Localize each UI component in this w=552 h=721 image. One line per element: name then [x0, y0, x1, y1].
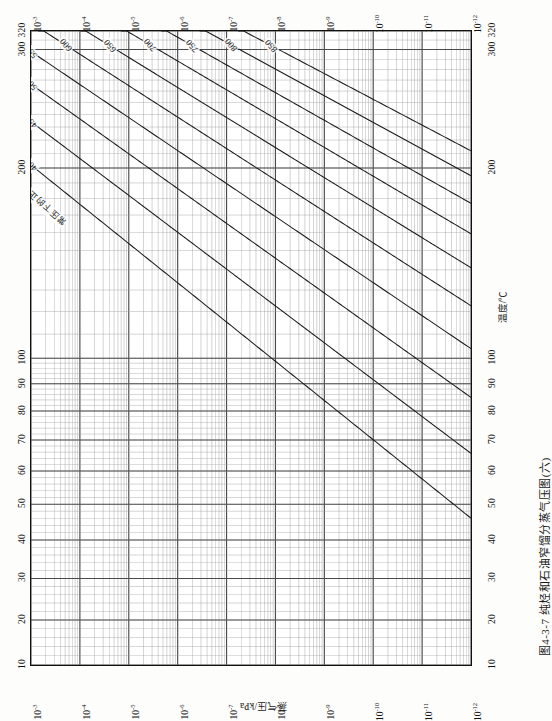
pressure-tick-10e-8: 10-8 [274, 17, 287, 32]
curve-600 [38, 31, 471, 306]
pressure-tick-10e-10: 10-10 [372, 15, 385, 33]
temperature-tick-100: 100 [18, 350, 27, 365]
temperature-tick-100: 100 [488, 350, 497, 365]
temperature-tick-300: 300 [18, 41, 27, 56]
pressure-tick-10e-3: 10-3 [30, 17, 43, 32]
temperature-tick-320: 320 [18, 22, 27, 37]
pressure-tick-10e-4: 10-4 [79, 705, 92, 720]
temperature-tick-80: 80 [18, 405, 27, 415]
temperature-tick-200: 200 [488, 159, 497, 174]
curve-400 [31, 165, 471, 518]
vapour-pressure-curves [31, 31, 471, 665]
temperature-tick-30: 30 [488, 572, 497, 582]
curve-450 [31, 122, 471, 454]
pressure-tick-10e-7: 10-7 [226, 705, 239, 720]
pressure-tick-10e-10: 10-10 [372, 703, 385, 721]
temperature-tick-80: 80 [488, 405, 497, 415]
temperature-tick-60: 60 [488, 465, 497, 475]
pressure-tick-10e-12: 10-12 [470, 703, 483, 721]
curve-500 [31, 84, 471, 397]
temperature-tick-50: 50 [488, 498, 497, 508]
temperature-tick-300: 300 [488, 41, 497, 56]
pressure-axis-title: 蒸气压/kPa [240, 700, 287, 714]
pressure-tick-10e-12: 10-12 [470, 15, 483, 33]
pressure-tick-10e-5: 10-5 [128, 705, 141, 720]
pressure-tick-10e-9: 10-9 [323, 705, 336, 720]
temperature-tick-70: 70 [488, 434, 497, 444]
curve-650 [81, 31, 472, 268]
figure-caption: 图4-3-7 纯烃和石油窄馏分蒸气压图(六) [536, 457, 552, 656]
pressure-tick-10e-7: 10-7 [226, 17, 239, 32]
temperature-tick-40: 40 [488, 534, 497, 544]
temperature-tick-90: 90 [18, 378, 27, 388]
temperature-tick-10: 10 [18, 659, 27, 669]
pressure-axis-title-text: 蒸气压/kPa [240, 701, 287, 711]
pressure-tick-10e-4: 10-4 [79, 17, 92, 32]
temperature-tick-50: 50 [18, 498, 27, 508]
pressure-tick-10e-6: 10-6 [177, 17, 190, 32]
temperature-tick-200: 200 [18, 159, 27, 174]
temperature-tick-90: 90 [488, 378, 497, 388]
curve-550 [31, 52, 471, 349]
temperature-tick-10: 10 [488, 659, 497, 669]
temperature-tick-20: 20 [18, 614, 27, 624]
pressure-tick-10e-6: 10-6 [177, 705, 190, 720]
pressure-tick-10e-5: 10-5 [128, 17, 141, 32]
pressure-tick-10e-11: 10-11 [421, 703, 434, 721]
curve-750 [161, 31, 471, 203]
pressure-tick-10e-9: 10-9 [323, 17, 336, 32]
temperature-axis-title: 温度/℃ [496, 291, 510, 324]
pressure-tick-10e-3: 10-3 [30, 705, 43, 720]
curve-700 [121, 31, 471, 234]
temperature-tick-30: 30 [18, 572, 27, 582]
temperature-tick-70: 70 [18, 434, 27, 444]
temperature-tick-20: 20 [488, 614, 497, 624]
temperature-tick-320: 320 [488, 22, 497, 37]
chart-plot-area: 400450500550600650700750800850 常压下的正常沸点温… [30, 30, 472, 666]
temperature-tick-60: 60 [18, 465, 27, 475]
pressure-tick-10e-11: 10-11 [421, 15, 434, 33]
temperature-tick-40: 40 [18, 534, 27, 544]
